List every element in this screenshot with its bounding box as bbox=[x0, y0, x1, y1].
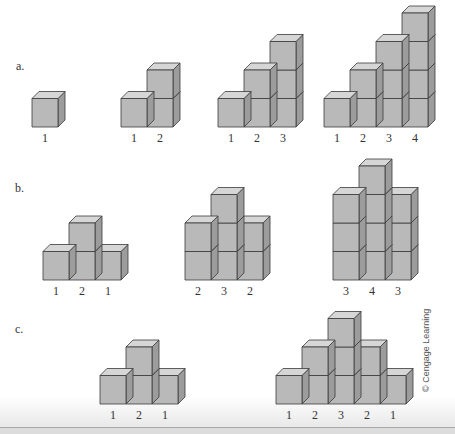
column-count-label: 2 bbox=[360, 131, 366, 145]
column-count-label: 1 bbox=[286, 408, 292, 422]
column-count-label: 3 bbox=[395, 284, 401, 298]
cube-stack-group-b-6: 232 bbox=[185, 188, 270, 299]
cube-front-face bbox=[100, 376, 126, 405]
cube-front-face bbox=[218, 99, 244, 128]
column-count-label: 2 bbox=[312, 408, 318, 422]
cube-front-face bbox=[32, 99, 58, 128]
column-count-label: 1 bbox=[334, 131, 340, 145]
cube bbox=[333, 188, 366, 224]
cube bbox=[121, 92, 154, 128]
cube-front-face bbox=[276, 376, 302, 405]
cube-front-face bbox=[333, 252, 359, 281]
cube-stack-group-b-7: 343 bbox=[333, 159, 418, 298]
column-count-label: 2 bbox=[195, 284, 201, 298]
column-count-label: 1 bbox=[228, 131, 234, 145]
column-count-label: 3 bbox=[280, 131, 286, 145]
cube bbox=[276, 369, 309, 405]
cube-stack-group-a-2: 12 bbox=[121, 63, 180, 145]
cube-front-face bbox=[121, 99, 147, 128]
column-count-label: 3 bbox=[221, 284, 227, 298]
cube-front-face bbox=[324, 99, 350, 128]
part-a-label: a. bbox=[16, 59, 24, 74]
column-count-label: 1 bbox=[42, 131, 48, 145]
column-count-label: 1 bbox=[53, 284, 59, 298]
cube bbox=[100, 369, 133, 405]
cube-stack-figure: 112123123412123234312112321 bbox=[0, 0, 455, 434]
cube bbox=[218, 92, 251, 128]
part-c-label: c. bbox=[15, 322, 23, 337]
column-count-label: 2 bbox=[247, 284, 253, 298]
cube bbox=[32, 92, 65, 128]
cube-front-face bbox=[43, 252, 69, 281]
cube-front-face bbox=[333, 195, 359, 224]
column-count-label: 1 bbox=[390, 408, 396, 422]
column-count-label: 2 bbox=[79, 284, 85, 298]
column-count-label: 3 bbox=[386, 131, 392, 145]
copyright-credit: © Cengage Learning bbox=[421, 309, 431, 392]
column-count-label: 1 bbox=[105, 284, 111, 298]
column-count-label: 2 bbox=[136, 408, 142, 422]
column-count-label: 4 bbox=[369, 284, 375, 298]
cube-stack-group-a-1: 1 bbox=[32, 92, 65, 146]
cube-front-face bbox=[333, 223, 359, 252]
column-count-label: 3 bbox=[343, 284, 349, 298]
column-count-label: 1 bbox=[162, 408, 168, 422]
part-b-label: b. bbox=[15, 181, 24, 196]
column-count-label: 2 bbox=[364, 408, 370, 422]
column-count-label: 2 bbox=[254, 131, 260, 145]
column-count-label: 2 bbox=[157, 131, 163, 145]
column-count-label: 3 bbox=[338, 408, 344, 422]
cube bbox=[185, 216, 218, 252]
column-count-label: 1 bbox=[131, 131, 137, 145]
column-count-label: 1 bbox=[110, 408, 116, 422]
cube-front-face bbox=[185, 252, 211, 281]
cube-stack-group-b-5: 121 bbox=[43, 216, 128, 298]
cube-stack-group-a-3: 123 bbox=[218, 35, 303, 146]
cube bbox=[43, 245, 76, 281]
cube-stack-group-c-8: 121 bbox=[100, 340, 185, 422]
cube-front-face bbox=[185, 223, 211, 252]
column-count-label: 4 bbox=[412, 131, 418, 145]
cube-stack-group-a-4: 1234 bbox=[324, 6, 435, 145]
cube-stack-group-c-9: 12321 bbox=[276, 312, 413, 423]
cube bbox=[324, 92, 357, 128]
